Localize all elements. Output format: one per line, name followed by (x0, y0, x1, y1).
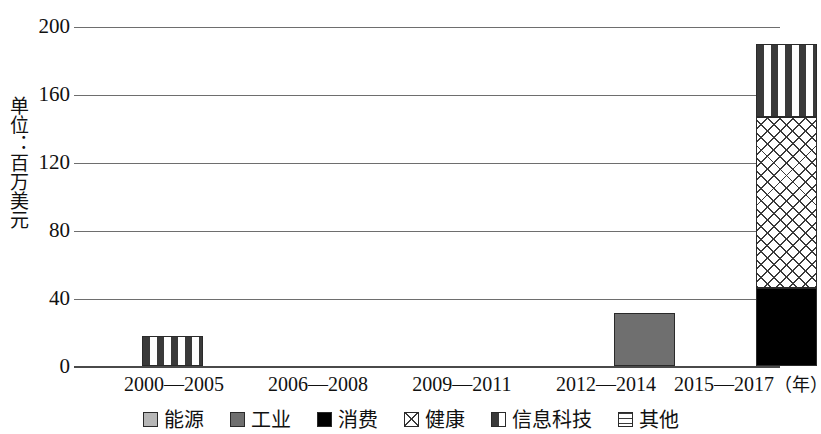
legend-swatch-icon (618, 412, 633, 427)
x-axis-labels: 2000—2005 2006—2008 2009—2011 2012—2014 … (74, 370, 820, 400)
bar-segment-consumer (756, 288, 817, 366)
bar-segment-health (756, 117, 817, 288)
y-tick-120: 120 (24, 152, 70, 173)
legend-item-5[interactable]: 信息科技 (491, 409, 592, 431)
x-label-1: 2000—2005 (102, 370, 246, 398)
gridline-80 (74, 231, 780, 232)
plot-area (74, 0, 780, 380)
x-label-5-text: 2015—2017 (674, 373, 774, 395)
x-label-3: 2009—2011 (390, 370, 534, 398)
y-tick-40: 40 (24, 288, 70, 309)
legend-label: 健康 (425, 409, 465, 431)
y-tick-80: 80 (24, 220, 70, 241)
y-tick-0: 0 (24, 356, 70, 377)
legend-label: 能源 (164, 409, 204, 431)
bar-4 (614, 313, 675, 366)
gridline-40 (74, 299, 780, 300)
legend-swatch-icon (491, 412, 506, 427)
legend-item-1[interactable]: 能源 (143, 409, 204, 431)
bar-segment-it (142, 336, 203, 367)
bar-segment-it (756, 44, 817, 117)
y-axis-tick-labels: 200 160 120 80 40 0 (24, 0, 70, 380)
legend-item-2[interactable]: 工业 (230, 409, 291, 431)
x-label-5: 2015—2017（年） (674, 370, 821, 399)
bar-5 (756, 44, 817, 366)
legend-item-6[interactable]: 其他 (618, 409, 679, 431)
legend-label: 其他 (639, 409, 679, 431)
stacked-bar-chart: 单位：百万美元 200 160 120 80 40 0 2000—2005 20… (0, 0, 821, 434)
legend-swatch-icon (143, 412, 158, 427)
chart-legend: 能源工业消费健康信息科技其他 (0, 405, 821, 434)
y-tick-200: 200 (24, 16, 70, 37)
gridline-160 (74, 95, 780, 96)
legend-label: 消费 (338, 409, 378, 431)
legend-label: 信息科技 (512, 409, 592, 431)
legend-label: 工业 (251, 409, 291, 431)
y-tick-160: 160 (24, 84, 70, 105)
legend-item-3[interactable]: 消费 (317, 409, 378, 431)
legend-swatch-icon (230, 412, 245, 427)
x-label-2: 2006—2008 (246, 370, 390, 398)
gridline-120 (74, 163, 780, 164)
x-axis-unit-suffix: （年） (774, 375, 821, 395)
x-label-4: 2012—2014 (534, 370, 678, 398)
bar-segment-industry (614, 313, 675, 366)
x-axis-line (74, 366, 780, 368)
legend-item-4[interactable]: 健康 (404, 409, 465, 431)
legend-swatch-icon (404, 412, 419, 427)
gridline-200 (74, 27, 780, 28)
legend-swatch-icon (317, 412, 332, 427)
bar-1 (142, 336, 203, 367)
